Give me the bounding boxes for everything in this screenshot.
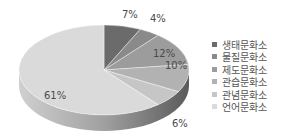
pie-top — [19, 25, 189, 115]
slice-label-4: 4% — [150, 13, 166, 24]
slice-label-6: 6% — [172, 118, 188, 129]
slice-label-7: 7% — [122, 9, 138, 20]
legend: 생태문화소 물질문화소 제도문화소 관습문화소 관념문화소 언어문화소 — [212, 38, 267, 113]
legend-swatch — [212, 42, 217, 47]
slice-label-10: 10% — [165, 60, 187, 71]
legend-label: 언어문화소 — [222, 99, 267, 114]
legend-swatch — [212, 67, 217, 72]
legend-swatch — [212, 92, 217, 97]
slice-label-61: 61% — [44, 90, 66, 101]
legend-item: 언어문화소 — [212, 101, 267, 114]
slice-label-12: 12% — [153, 48, 175, 59]
legend-swatch — [212, 54, 217, 59]
legend-swatch — [212, 79, 217, 84]
legend-swatch — [212, 104, 217, 109]
